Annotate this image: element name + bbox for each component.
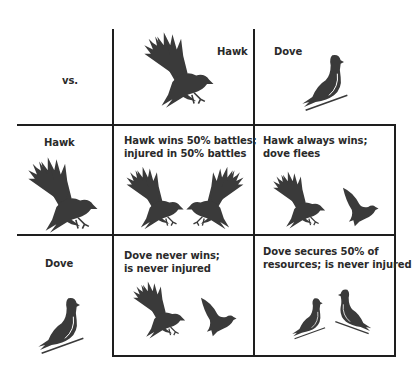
dove-flying-icon <box>198 296 238 338</box>
grid-vertical-2 <box>253 29 255 357</box>
cell-hawk-dove-line1: Hawk always wins; <box>263 134 367 147</box>
cell-dove-dove-line1: Dove secures 50% of <box>263 245 379 258</box>
dove-icon <box>32 295 88 355</box>
cell-dove-hawk-line2: is never injured <box>124 262 211 275</box>
cell-hawk-hawk-line1: Hawk wins 50% battles; <box>124 134 257 147</box>
grid-horizontal-3 <box>112 355 396 357</box>
hawk-icon <box>132 280 188 340</box>
hawk-icon <box>182 165 246 231</box>
dove-flying-icon <box>340 186 380 228</box>
dove-icon <box>288 296 328 340</box>
hawk-icon <box>124 165 188 231</box>
dove-icon <box>296 52 352 112</box>
cell-dove-hawk-line1: Dove never wins; <box>124 249 220 262</box>
dove-icon <box>333 287 375 335</box>
grid-vertical-1 <box>112 29 114 357</box>
grid-horizontal-1 <box>17 124 396 126</box>
hawk-icon <box>24 155 104 235</box>
grid-vertical-3 <box>394 125 396 357</box>
col-header-hawk: Hawk <box>217 45 248 58</box>
cell-hawk-hawk-line2: injured in 50% battles <box>124 147 246 160</box>
cell-dove-dove-line2: resources; is never injured <box>263 258 411 271</box>
corner-label: vs. <box>62 74 78 87</box>
row-header-dove: Dove <box>45 257 73 270</box>
hawk-icon <box>140 30 220 110</box>
row-header-hawk: Hawk <box>44 136 75 149</box>
cell-hawk-dove-line2: dove flees <box>263 147 320 160</box>
hawk-icon <box>272 170 328 230</box>
